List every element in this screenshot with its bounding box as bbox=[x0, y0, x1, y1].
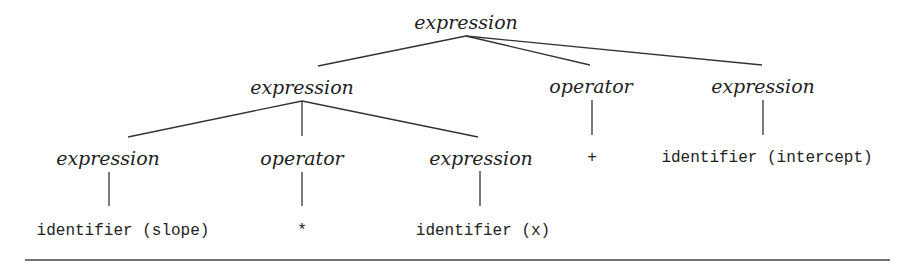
node-expression-left: expression bbox=[250, 76, 354, 98]
leaf-identifier-slope: identifier (slope) bbox=[37, 222, 210, 240]
leaf-identifier-intercept: identifier (intercept) bbox=[661, 149, 872, 167]
node-root-expression: expression bbox=[414, 11, 518, 33]
edge-root-to-expression-right bbox=[466, 36, 762, 65]
leaf-identifier-x: identifier (x) bbox=[416, 222, 550, 240]
edge-expression-to-expression bbox=[128, 101, 302, 137]
node-expression-slope: expression bbox=[56, 147, 160, 169]
edge-root-to-expression-left bbox=[318, 36, 466, 66]
leaf-times: * bbox=[297, 222, 307, 240]
edge-expression-to-expression-x bbox=[302, 101, 478, 137]
node-expression-right: expression bbox=[711, 75, 815, 97]
edge-root-to-operator bbox=[466, 36, 590, 65]
node-operator-plus: operator bbox=[549, 75, 634, 97]
parse-tree-diagram: expression expression operator expressio… bbox=[0, 0, 913, 264]
node-expression-x: expression bbox=[429, 147, 533, 169]
node-operator-times: operator bbox=[260, 147, 345, 169]
leaf-plus: + bbox=[587, 149, 597, 167]
